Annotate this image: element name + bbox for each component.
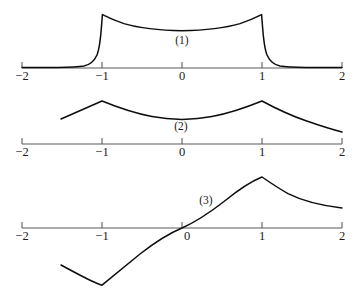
tick-label-1: 1 <box>259 145 265 159</box>
tick-label--1: −1 <box>95 229 108 243</box>
panel-2-label: (2) <box>174 120 188 133</box>
tick-label-0: 0 <box>179 145 185 159</box>
panel-3: −2 −1 0 1 2 (3) <box>15 177 345 285</box>
tick-label-1b: 1 <box>259 229 265 243</box>
panel-2: −2 −1 0 1 2 (2) <box>15 101 345 159</box>
tick-label--1: −1 <box>95 145 108 159</box>
panel-3-tick-labels: −2 −1 0 1 2 <box>15 229 345 243</box>
tick-label-2: 2 <box>339 229 345 243</box>
panel-1-tick-labels: −2 −1 0 1 2 <box>15 69 345 83</box>
panel-2-curve <box>61 101 342 132</box>
tick-label-0: 0 <box>179 69 185 83</box>
panel-2-tick-labels: −2 −1 0 1 2 <box>15 145 345 159</box>
tick-label--2: −2 <box>15 145 28 159</box>
tick-label-0: 0 <box>184 229 190 243</box>
figure-root: −2 −1 0 1 2 (1) −2 −1 0 1 <box>0 0 357 292</box>
panel-1-label: (1) <box>175 34 189 47</box>
tick-label-2: 2 <box>339 145 345 159</box>
panel-3-label: (3) <box>199 194 213 207</box>
tick-label--1: −1 <box>95 69 108 83</box>
tick-label--2: −2 <box>15 229 28 243</box>
tick-label--2: −2 <box>15 69 28 83</box>
panel-3-ticks <box>22 222 342 228</box>
panel-1: −2 −1 0 1 2 (1) <box>15 15 345 83</box>
tick-label-2: 2 <box>339 69 345 83</box>
tick-label-1: 1 <box>259 69 265 83</box>
panel-2-ticks <box>22 138 342 144</box>
three-curves-figure: −2 −1 0 1 2 (1) −2 −1 0 1 <box>0 0 357 292</box>
